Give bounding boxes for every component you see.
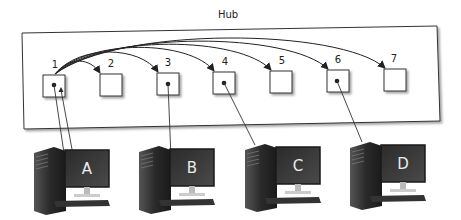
computer-c: C <box>245 144 321 212</box>
svg-text:5: 5 <box>279 55 285 66</box>
svg-text:4: 4 <box>222 56 228 67</box>
keyboard <box>54 200 110 207</box>
computer-b: B <box>139 146 215 214</box>
svg-text:3: 3 <box>165 57 171 68</box>
svg-text:C: C <box>293 157 303 175</box>
keyboard <box>159 199 215 206</box>
computer-d: D <box>350 142 426 210</box>
keyboard <box>265 197 321 204</box>
computer-a: A <box>34 147 110 215</box>
keyboard <box>370 195 426 202</box>
hub-diagram: Hub 1 2 3 4 5 6 7 <box>0 0 461 220</box>
hub-title: Hub <box>218 9 238 20</box>
svg-text:6: 6 <box>335 54 341 65</box>
svg-text:A: A <box>82 160 93 178</box>
svg-text:D: D <box>397 155 409 173</box>
svg-text:2: 2 <box>108 58 114 69</box>
svg-text:B: B <box>187 159 197 177</box>
svg-text:1: 1 <box>52 59 58 70</box>
svg-text:7: 7 <box>391 53 397 64</box>
